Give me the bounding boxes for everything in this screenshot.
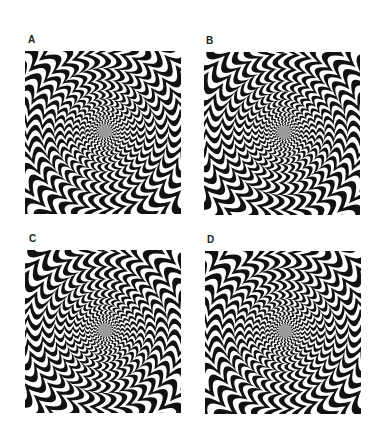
panel-label-c: C <box>29 233 36 244</box>
panel-label-a: A <box>28 34 35 45</box>
spiral-illusion-a <box>25 51 181 214</box>
spiral-illusion-d <box>205 251 361 414</box>
panel-label-b: B <box>206 35 213 46</box>
spiral-illusion-b <box>204 52 360 215</box>
spiral-illusion-c <box>25 250 181 413</box>
panel-label-d: D <box>207 234 214 245</box>
